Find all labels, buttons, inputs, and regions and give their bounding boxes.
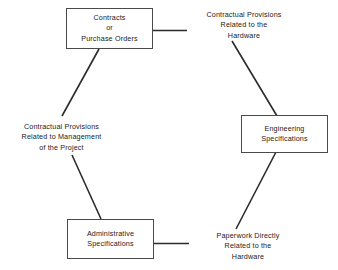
node-contracts-line-3: Purchase Orders — [81, 34, 138, 44]
edge-label-management: Contractual Provisions Related to Manage… — [4, 122, 119, 153]
edge-label-paperwork-line-3: Hardware — [186, 252, 310, 262]
edge-label-management-line-3: of the Project — [4, 143, 119, 153]
edge-label-hardware-contractual: Contractual Provisions Related to the Ha… — [178, 10, 310, 41]
edge-label-paperwork-line-1: Paperwork Directly — [186, 231, 310, 241]
edge-hardware-label-to-engineering — [232, 41, 277, 116]
edge-label-paperwork-line-2: Related to the — [186, 241, 310, 251]
edge-label-hardware-contractual-line-3: Hardware — [178, 31, 310, 41]
node-contracts-line-2: or — [106, 23, 113, 33]
node-administrative-line-1: Administrative — [87, 229, 134, 239]
node-engineering-specifications[interactable]: Engineering Specifications — [241, 115, 328, 153]
edge-label-management-line-2: Related to Management — [4, 132, 119, 142]
edge-management-label-to-contracts — [62, 49, 99, 116]
edge-label-management-line-1: Contractual Provisions — [4, 122, 119, 132]
node-contracts[interactable]: Contracts or Purchase Orders — [66, 8, 153, 49]
node-engineering-line-2: Specifications — [261, 134, 307, 144]
node-contracts-line-1: Contracts — [93, 13, 125, 23]
edge-label-hardware-contractual-line-1: Contractual Provisions — [178, 10, 310, 20]
node-administrative-specifications[interactable]: Administrative Specifications — [67, 219, 154, 259]
node-engineering-line-1: Engineering — [264, 124, 304, 134]
edge-label-hardware-contractual-line-2: Related to the — [178, 20, 310, 30]
edge-administrative-to-management-label — [72, 155, 101, 219]
edge-engineering-to-paperwork-label — [236, 152, 276, 229]
cycle-diagram: Contracts or Purchase Orders Engineering… — [0, 0, 338, 270]
edge-label-paperwork: Paperwork Directly Related to the Hardwa… — [186, 231, 310, 262]
node-administrative-line-2: Specifications — [87, 239, 133, 249]
